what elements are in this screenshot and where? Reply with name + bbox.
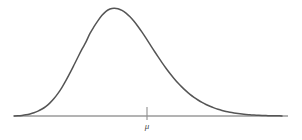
mu-axis-label: μ xyxy=(144,121,150,131)
curve-group xyxy=(14,8,282,116)
plot-canvas: μ xyxy=(0,0,302,140)
tick-label-group: μ xyxy=(144,121,150,131)
density-curve xyxy=(14,8,282,116)
distribution-figure: μ xyxy=(0,0,302,140)
